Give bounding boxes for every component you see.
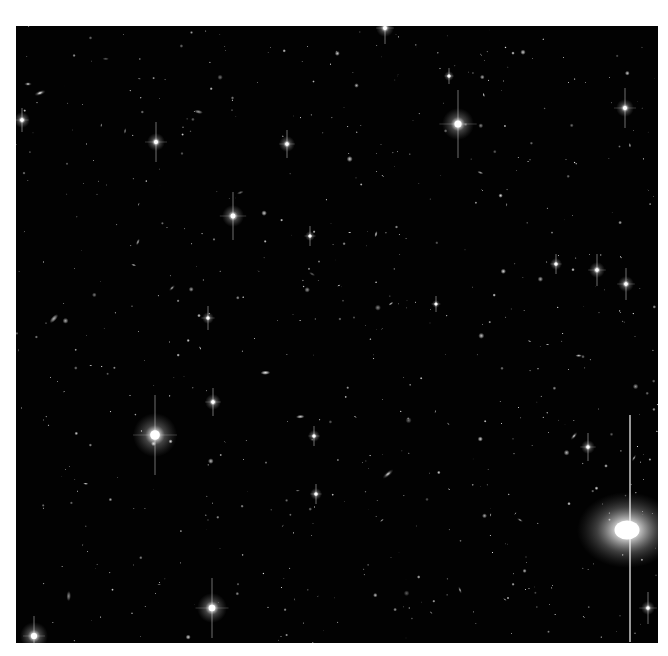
faint-star: [368, 467, 370, 469]
faint-star: [603, 289, 605, 291]
star-core: [624, 282, 628, 286]
faint-star: [538, 276, 544, 282]
faint-star: [343, 107, 345, 109]
faint-star: [331, 493, 334, 496]
faint-star: [100, 616, 102, 618]
faint-star: [81, 250, 82, 251]
faint-star: [546, 412, 548, 414]
faint-star: [302, 622, 304, 624]
faint-star: [376, 171, 378, 173]
star-core: [447, 74, 450, 77]
faint-star: [459, 539, 462, 542]
faint-star: [132, 134, 134, 136]
faint-star: [74, 431, 78, 435]
faint-star: [116, 224, 118, 226]
faint-star: [632, 312, 634, 314]
faint-star: [314, 506, 316, 508]
faint-star: [245, 440, 247, 442]
faint-star: [652, 349, 654, 351]
faint-star: [73, 640, 75, 642]
faint-star: [347, 156, 353, 162]
faint-star: [589, 359, 591, 361]
faint-star: [130, 245, 132, 247]
faint-star: [642, 158, 644, 160]
faint-star: [287, 421, 289, 423]
faint-star: [302, 285, 304, 287]
faint-star: [117, 477, 118, 478]
faint-star: [217, 75, 223, 81]
faint-star: [228, 198, 230, 200]
faint-star: [209, 87, 212, 90]
faint-star: [52, 622, 54, 624]
faint-star: [328, 420, 332, 424]
faint-star: [82, 104, 84, 106]
faint-star: [240, 504, 244, 508]
faint-star: [283, 578, 285, 580]
faint-star: [501, 90, 502, 91]
faint-star: [91, 620, 92, 621]
faint-star: [406, 300, 407, 301]
faint-star: [189, 130, 191, 132]
faint-star: [532, 58, 534, 60]
faint-star: [164, 79, 166, 81]
faint-star: [139, 96, 141, 98]
faint-star: [522, 569, 526, 573]
faint-star: [564, 219, 565, 220]
faint-star: [67, 102, 69, 104]
faint-star: [132, 178, 134, 180]
faint-star: [536, 401, 538, 403]
faint-star: [454, 65, 456, 67]
faint-star: [235, 197, 236, 198]
faint-star: [235, 116, 236, 117]
faint-star: [356, 131, 358, 133]
faint-star: [385, 231, 387, 233]
faint-star: [360, 125, 362, 127]
faint-star: [72, 54, 75, 57]
faint-star: [507, 66, 509, 68]
faint-star: [111, 588, 114, 591]
faint-star: [400, 410, 402, 412]
faint-star: [647, 131, 649, 133]
faint-star: [505, 316, 507, 318]
faint-star: [482, 513, 487, 518]
faint-star: [597, 408, 599, 410]
faint-star: [145, 180, 148, 183]
faint-star: [403, 376, 405, 378]
faint-star: [594, 486, 598, 490]
faint-star: [155, 593, 157, 595]
faint-star: [437, 471, 441, 475]
faint-star: [262, 572, 264, 574]
faint-star: [474, 201, 477, 204]
faint-star: [568, 369, 569, 370]
faint-star: [219, 454, 222, 457]
faint-star: [169, 395, 171, 397]
faint-star: [301, 61, 302, 62]
faint-star: [113, 366, 116, 369]
faint-star: [325, 199, 327, 201]
faint-star: [589, 254, 590, 255]
sky-background: [16, 26, 658, 643]
galaxy-core: [615, 521, 640, 540]
faint-star: [319, 419, 321, 421]
faint-star: [554, 614, 556, 616]
galaxy: [24, 82, 32, 86]
faint-star: [537, 522, 539, 524]
faint-star: [129, 90, 131, 92]
faint-star: [286, 354, 288, 356]
faint-star: [36, 101, 38, 103]
faint-star: [472, 458, 474, 460]
faint-star: [101, 365, 103, 367]
faint-star: [86, 143, 88, 145]
star-core: [314, 492, 317, 495]
faint-star: [206, 528, 207, 529]
faint-star: [382, 454, 383, 455]
faint-star: [76, 216, 78, 218]
faint-star: [505, 543, 507, 545]
faint-star: [478, 333, 484, 339]
faint-star: [144, 606, 146, 608]
faint-star: [42, 419, 44, 421]
faint-star: [285, 633, 288, 636]
faint-star: [645, 391, 649, 395]
faint-star: [405, 579, 406, 580]
faint-star: [540, 395, 542, 397]
